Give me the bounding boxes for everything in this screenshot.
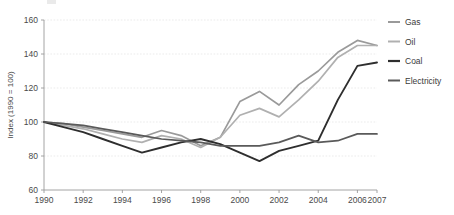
series-line-oil xyxy=(44,46,377,148)
x-tick-label: 2007 xyxy=(368,195,387,205)
legend-label-gas: Gas xyxy=(405,17,421,27)
legend-label-oil: Oil xyxy=(405,37,416,47)
y-axis-title: Index (1990 = 100) xyxy=(6,71,15,139)
series-line-gas xyxy=(44,40,377,145)
legend-label-coal: Coal xyxy=(405,56,423,66)
y-tick-label: 60 xyxy=(29,185,39,195)
x-tick-label: 1998 xyxy=(191,195,210,205)
x-axis-ticks: 1990199219941996199820002002200420062007 xyxy=(35,190,387,205)
y-tick-label: 160 xyxy=(24,15,38,25)
y-axis-title-text: Index (1990 = 100) xyxy=(6,71,15,139)
y-tick-label: 80 xyxy=(29,151,39,161)
x-tick-label: 1992 xyxy=(74,195,93,205)
x-tick-label: 1990 xyxy=(35,195,54,205)
y-tick-label: 140 xyxy=(24,49,38,59)
x-tick-label: 2006 xyxy=(348,195,367,205)
chart-legend: GasOilCoalElectricity xyxy=(388,17,442,86)
x-tick-label: 1994 xyxy=(113,195,132,205)
chart-canvas: 6080100120140160 19901992199419961998200… xyxy=(0,0,454,215)
axes xyxy=(44,20,377,190)
x-tick-label: 2000 xyxy=(230,195,249,205)
legend-label-electricity: Electricity xyxy=(405,76,442,86)
y-tick-label: 120 xyxy=(24,83,38,93)
x-tick-label: 1996 xyxy=(152,195,171,205)
series-line-coal xyxy=(44,63,377,162)
y-tick-label: 100 xyxy=(24,117,38,127)
line-chart: 6080100120140160 19901992199419961998200… xyxy=(0,0,454,215)
x-tick-label: 2004 xyxy=(309,195,328,205)
y-axis-ticks: 6080100120140160 xyxy=(24,15,44,195)
data-series xyxy=(44,40,377,161)
x-tick-label: 2002 xyxy=(270,195,289,205)
